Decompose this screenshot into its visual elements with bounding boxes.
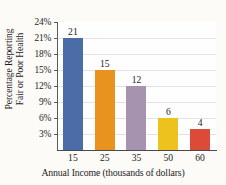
y-axis-tick-label: 12% — [34, 81, 51, 91]
bar-group: 6 — [152, 22, 184, 150]
bar — [190, 129, 210, 150]
bar-value-label: 4 — [198, 117, 203, 128]
bar-group: 15 — [89, 22, 121, 150]
bar-group: 12 — [121, 22, 153, 150]
bar-group: 21 — [57, 22, 89, 150]
x-axis-tick-label: 50 — [152, 152, 184, 163]
bar-value-label: 15 — [100, 58, 110, 69]
y-axis-tick-labels: 24%21%18%15%12%9%6%3% — [16, 0, 54, 185]
bar-group: 4 — [184, 22, 216, 150]
bars-layer: 21151264 — [57, 22, 216, 150]
bar — [95, 70, 115, 150]
x-axis-tick-label: 35 — [121, 152, 153, 163]
y-axis-tick-label: 18% — [34, 49, 51, 59]
x-axis-title: Annual Income (thousands of dollars) — [0, 167, 226, 178]
y-axis-tick-label: 6% — [39, 113, 51, 123]
y-axis-tick-label: 3% — [39, 129, 51, 139]
bar-value-label: 21 — [68, 26, 78, 37]
bar — [63, 38, 83, 150]
y-axis-tick-label: 21% — [34, 33, 51, 43]
bar-value-label: 12 — [132, 74, 142, 85]
y-axis-tick-label: 15% — [34, 65, 51, 75]
x-axis-tick-labels: 1525355060 — [57, 152, 216, 166]
x-axis-tick-label: 15 — [57, 152, 89, 163]
bar-chart-figure: Percentage Reporting Fair or Poor Health… — [0, 0, 226, 185]
y-axis-title-line1: Percentage Reporting — [3, 9, 14, 129]
y-axis-tick-label: 24% — [34, 17, 51, 27]
bar — [158, 118, 178, 150]
y-axis-tick-label: 9% — [39, 97, 51, 107]
bar-value-label: 6 — [166, 106, 171, 117]
x-axis-tick-label: 25 — [89, 152, 121, 163]
bar — [126, 86, 146, 150]
x-axis-line — [57, 150, 217, 151]
x-axis-tick-label: 60 — [184, 152, 216, 163]
